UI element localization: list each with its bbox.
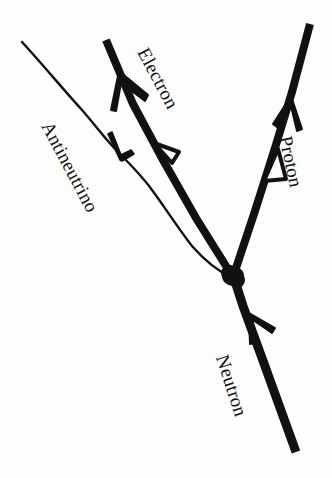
neutron-line xyxy=(234,278,296,452)
interaction-vertex xyxy=(221,265,245,288)
neutron-arrowhead-icon xyxy=(249,313,275,344)
neutron-line-group xyxy=(234,278,296,452)
vertex-blob-spread-2 xyxy=(229,272,245,288)
feynman-diagram: Electron Antineutrino Proton Neutron xyxy=(0,0,332,478)
